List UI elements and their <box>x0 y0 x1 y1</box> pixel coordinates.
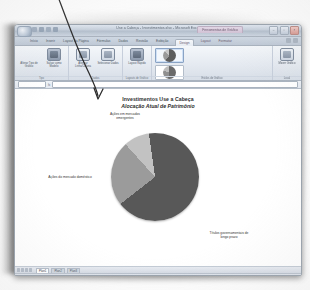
button-label: Selecionar Dados <box>97 62 118 65</box>
contextual-tab-group-label: Ferramentas de Gráfico <box>197 26 243 33</box>
save-template-icon <box>47 48 61 61</box>
sheet-tab-bar[interactable]: Plan1 Plan2 Plan3 <box>15 267 301 274</box>
help-icon[interactable] <box>286 38 291 43</box>
tab-design[interactable]: Design <box>175 39 193 46</box>
first-sheet-icon[interactable] <box>17 268 20 272</box>
ribbon-help-controls[interactable] <box>286 38 298 43</box>
next-sheet-icon[interactable] <box>25 268 28 272</box>
page-break-icon[interactable] <box>254 275 261 276</box>
group-label-dados: Dados <box>69 76 122 81</box>
group-label-layouts-de-grafico: Layouts de Gráfico <box>123 76 151 81</box>
status-bar: Pronto 100% <box>15 274 301 276</box>
minimize-ribbon-icon[interactable] <box>293 38 298 43</box>
move-chart-icon <box>280 48 294 61</box>
formula-bar: fx <box>15 81 301 89</box>
worksheet-area[interactable]: Investimentos Use a Cabeça Alocação Atua… <box>15 89 301 267</box>
formula-input[interactable] <box>52 81 298 88</box>
button-label: Alterar Tipo de Gráfico <box>18 62 40 68</box>
screenshot-stage: Use a Cabeça - Investimentos.xlsx - Micr… <box>0 0 310 290</box>
sheet-tab-plan1[interactable]: Plan1 <box>36 268 49 273</box>
window-controls[interactable]: – □ × <box>269 26 299 35</box>
tab-formulas[interactable]: Fórmulas <box>96 39 112 43</box>
sheet-tab-plan2[interactable]: Plan2 <box>51 268 64 273</box>
window-title: Use a Cabeça - Investimentos.xlsx - Micr… <box>15 26 301 30</box>
button-label: Layout Rápido <box>128 62 145 65</box>
group-label-estilos-de-grafico: Estilos de Gráfico <box>152 76 272 81</box>
select-data-icon <box>101 48 115 61</box>
status-state: Pronto <box>18 276 27 277</box>
pie-plot-area: Ações em mercados emergentes Ações do me… <box>15 89 301 266</box>
pie-label-domestic-stocks: Ações do mercado doméstico <box>41 175 99 179</box>
tab-dados[interactable]: Dados <box>117 39 129 43</box>
title-bar: Use a Cabeça - Investimentos.xlsx - Micr… <box>15 25 301 37</box>
group-label-tipo: Tipo <box>15 76 68 81</box>
tab-inserir[interactable]: Inserir <box>45 39 56 43</box>
tab-revisao[interactable]: Revisão <box>135 39 149 43</box>
ribbon-group-tipo: Alterar Tipo de Gráfico Salvar como Mode… <box>15 46 69 80</box>
ribbon-group-local: Mover Gráfico Local <box>273 46 301 80</box>
ribbon-group-estilos-de-grafico: Estilos de Gráfico <box>152 46 273 80</box>
prev-sheet-icon[interactable] <box>21 268 24 272</box>
excel-window: Use a Cabeça - Investimentos.xlsx - Micr… <box>14 24 302 276</box>
last-sheet-icon[interactable] <box>29 268 32 272</box>
sheet-tab-plan3[interactable]: Plan3 <box>67 268 80 273</box>
pie-chart[interactable] <box>111 133 199 221</box>
maximize-button[interactable]: □ <box>280 26 289 35</box>
status-right-controls[interactable]: 100% <box>238 275 298 276</box>
sheet-nav-buttons[interactable] <box>17 268 32 272</box>
button-layout-rapido[interactable]: Layout Rápido <box>126 48 148 65</box>
button-label: Mover Gráfico <box>279 62 296 65</box>
ribbon: Alterar Tipo de Gráfico Salvar como Mode… <box>15 46 301 81</box>
ribbon-group-dados: Alternar Linha/Coluna Selecionar Dados D… <box>69 46 123 80</box>
button-label: Salvar como Modelo <box>43 62 65 68</box>
button-alterar-tipo-de-grafico[interactable]: Alterar Tipo de Gráfico <box>18 48 40 68</box>
button-label: Alternar Linha/Coluna <box>72 62 94 68</box>
minimize-button[interactable]: – <box>269 26 278 35</box>
pie-thumbnail-icon <box>163 49 176 62</box>
tab-formatar[interactable]: Formatar <box>218 39 233 43</box>
button-alternar-linha-coluna[interactable]: Alternar Linha/Coluna <box>72 48 94 68</box>
tab-layout-da-pagina[interactable]: Layout da Página <box>62 39 90 43</box>
insert-function-icon[interactable]: fx <box>48 83 50 87</box>
button-salvar-como-modelo[interactable]: Salvar como Modelo <box>43 48 65 68</box>
ribbon-tab-strip[interactable]: Início Inserir Layout da Página Fórmulas… <box>15 37 301 46</box>
group-label-local: Local <box>273 76 301 81</box>
name-box[interactable] <box>18 81 46 88</box>
pie-label-government-bonds: Títulos governamentais de longo prazo <box>201 231 257 239</box>
button-mover-grafico[interactable]: Mover Gráfico <box>276 48 298 65</box>
close-button[interactable]: × <box>290 26 299 35</box>
chart-object[interactable]: Investimentos Use a Cabeça Alocação Atua… <box>15 89 301 266</box>
page-layout-icon[interactable] <box>246 275 253 276</box>
button-selecionar-dados[interactable]: Selecionar Dados <box>97 48 119 65</box>
tab-layout[interactable]: Layout <box>200 39 212 43</box>
tab-inicio[interactable]: Início <box>29 39 39 43</box>
quick-layout-icon <box>130 48 144 61</box>
ribbon-group-layouts-de-grafico: Layout Rápido Layouts de Gráfico <box>123 46 152 80</box>
normal-view-icon[interactable] <box>238 275 245 276</box>
view-buttons[interactable] <box>238 275 261 276</box>
chart-style-1[interactable] <box>155 48 184 63</box>
switch-row-column-icon <box>76 48 90 61</box>
pie-label-emerging-markets: Ações em mercados emergentes <box>99 112 151 120</box>
tab-exibicao[interactable]: Exibição <box>155 39 169 43</box>
